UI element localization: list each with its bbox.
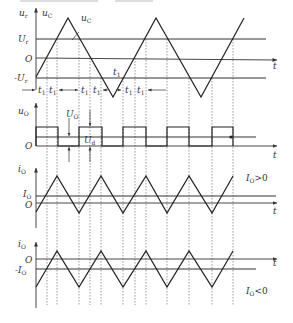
condition-label-positive: IO>0 — [245, 173, 268, 184]
uc-curve-label: uC — [81, 13, 92, 24]
neg-ur-level-label: -Ur — [14, 73, 28, 84]
origin-label: O — [25, 54, 33, 64]
cutoff-caption — [20, 0, 153, 2]
uc-axis-label: uC — [42, 8, 53, 19]
svg-text:t1: t1 — [93, 85, 100, 96]
io-axis-label: iO — [18, 164, 26, 175]
pwm-waveform-diagram: ur uC uC Ur O -Ur t t1 t1 t1 t1 t1 t1 t1… — [0, 0, 293, 323]
origin-label: O — [25, 255, 33, 265]
ur-axis-label: ur — [19, 8, 28, 19]
svg-text:t1: t1 — [137, 85, 144, 96]
t-axis-label: t — [273, 61, 277, 71]
svg-text:t1: t1 — [49, 85, 56, 96]
current-triangle-wave-positive — [36, 176, 233, 213]
neg-Io-level-label: -IO — [15, 265, 27, 276]
svg-text:t1: t1 — [125, 85, 132, 96]
t-axis-label: t — [273, 150, 277, 160]
t1-interval-row: t1 t1 t1 t1 t1 t1 — [22, 85, 166, 96]
time-guide-lines — [47, 39, 233, 305]
Uo-label: UO — [66, 109, 79, 120]
io-axis-label: iO — [18, 239, 26, 250]
t-axis-label: t — [273, 258, 277, 268]
uo-axis-label: uO — [18, 106, 29, 117]
origin-label: O — [25, 200, 33, 210]
t-axis — [36, 58, 277, 60]
svg-text:t1: t1 — [81, 85, 88, 96]
t-axis-label: t — [273, 206, 277, 216]
panel-carrier-comparison: ur uC uC Ur O -Ur t t1 — [14, 8, 277, 97]
panel-current-positive: iO IO O t IO>0 — [18, 164, 277, 228]
svg-text:t1: t1 — [38, 85, 45, 96]
t1-annotation: t1 — [113, 67, 120, 78]
marker-dot — [229, 135, 232, 138]
ur-level-label: Ur — [18, 34, 29, 45]
Io-level-label: IO — [22, 189, 32, 200]
condition-label-negative: IO<0 — [245, 286, 268, 297]
origin-label: O — [25, 141, 33, 151]
